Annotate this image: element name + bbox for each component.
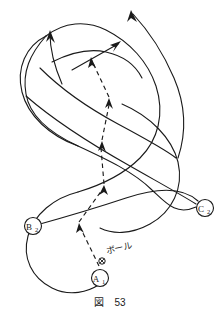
- arrowhead-pass-1-icon: [76, 223, 84, 233]
- helix-strand-upper-diagonal: [26, 96, 196, 204]
- dash-seg-a1-to-p1: [81, 229, 99, 266]
- dash-seg-p2-to-p3: [101, 148, 104, 184]
- figure-caption: 図53: [0, 294, 220, 309]
- node-b2[interactable]: B 2: [25, 218, 42, 235]
- caption-number: 53: [114, 297, 125, 308]
- dash-seg-p3-to-p4: [102, 105, 109, 140]
- node-b2-letter: B: [26, 222, 32, 232]
- solid-arrowheads: [46, 10, 137, 52]
- dash-seg-p1-to-p2: [79, 190, 102, 222]
- helix-strand-right-bow: [100, 104, 180, 232]
- caption-label: 図: [94, 297, 104, 308]
- node-a1-letter: A: [93, 274, 100, 284]
- ball-marker: [99, 258, 105, 264]
- node-b2-subscript: 2: [35, 226, 38, 233]
- node-c2-letter: C: [198, 204, 204, 214]
- arrowhead-top-mid-icon: [110, 41, 121, 52]
- node-c2[interactable]: C 2: [197, 200, 214, 217]
- node-c2-subscript: 2: [207, 208, 210, 215]
- arrowhead-pass-3-icon: [98, 141, 106, 152]
- helix-strand-lower-loop: [26, 192, 100, 293]
- arrowhead-pass-2-icon: [99, 185, 108, 195]
- helix-strand-outer-left: [25, 36, 196, 210]
- figure-container: A 1 B 2 C 2 ボール 図53: [0, 0, 220, 317]
- node-a1[interactable]: A 1: [92, 270, 109, 287]
- ball-pass-dashed-path: [79, 59, 109, 266]
- node-a1-subscript: 1: [102, 278, 105, 285]
- figure-drawing: A 1 B 2 C 2: [0, 0, 220, 317]
- helix-strand-top-rising: [52, 51, 142, 78]
- helix-strand-top-left-tail: [50, 34, 62, 84]
